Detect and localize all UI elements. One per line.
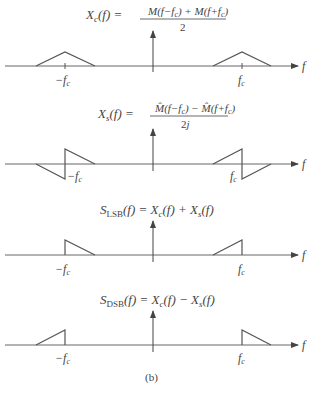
svg-text:2: 2: [180, 21, 186, 33]
axis-label-f: f: [302, 157, 307, 171]
spectrum-diagram: Xc(f) = M(f−fc) + M(f+fc) 2 f −fc fc Xs(…: [0, 0, 312, 396]
equation-xs: Xs(f) = M̂(f−fc) − M̂(f+fc) 2j: [97, 102, 235, 130]
spectrum-neg: [36, 330, 65, 345]
panel-xs: Xs(f) = M̂(f−fc) − M̂(f+fc) 2j f −fc fc: [5, 102, 307, 184]
spectrum-pos: [213, 240, 242, 255]
equation-dsb: SDSB(f) = Xc(f) − Xs(f): [100, 292, 215, 309]
svg-text:Xc(f) =: Xc(f) =: [85, 7, 122, 24]
axis-label-f: f: [302, 59, 307, 73]
tick-pos-fc: fc: [238, 262, 245, 277]
axis-label-f: f: [302, 248, 307, 262]
equation-lsb: SLSB(f) = Xc(f) + Xs(f): [100, 202, 214, 219]
tick-neg-fc: −fc: [55, 351, 70, 366]
tick-neg-fc: −fc: [55, 73, 70, 88]
equation-xc: Xc(f) = M(f−fc) + M(f+fc) 2: [85, 5, 228, 33]
tick-neg-fc: −fc: [55, 262, 70, 277]
svg-text:M̂(f−fc) − M̂(f+fc): M̂(f−fc) − M̂(f+fc): [154, 102, 235, 116]
tick-neg-fc: −fc: [67, 169, 82, 184]
tick-pos-fc: fc: [238, 73, 245, 88]
spectrum-pos: [242, 330, 271, 345]
axis-label-f: f: [302, 338, 307, 352]
panel-dsb: SDSB(f) = Xc(f) − Xs(f) f −fc fc: [5, 292, 307, 366]
figure-caption: (b): [145, 371, 158, 384]
panel-xc: Xc(f) = M(f−fc) + M(f+fc) 2 f −fc fc: [5, 5, 307, 88]
svg-text:2j: 2j: [181, 118, 190, 130]
svg-text:Xs(f) =: Xs(f) =: [97, 106, 134, 123]
svg-text:M(f−fc) + M(f+fc): M(f−fc) + M(f+fc): [147, 5, 228, 19]
spectrum-neg: [65, 240, 95, 255]
tick-pos-fc: fc: [230, 169, 237, 184]
tick-pos-fc: fc: [238, 351, 245, 366]
panel-lsb: SLSB(f) = Xc(f) + Xs(f) f −fc fc: [5, 202, 307, 277]
